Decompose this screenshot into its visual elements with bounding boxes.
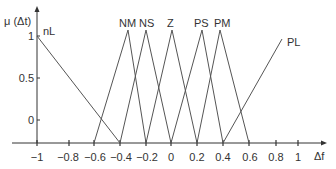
x-tick-label: −0.8 bbox=[57, 151, 79, 163]
x-tick-label: 0.8 bbox=[268, 151, 283, 163]
x-axis-label: Δf bbox=[314, 150, 325, 162]
y-axis-label: μ (Δt) bbox=[4, 15, 31, 27]
x-tick-label: −1 bbox=[31, 151, 44, 163]
x-tick-label: −0.6 bbox=[84, 151, 106, 163]
x-tick-label: 0.2 bbox=[189, 151, 204, 163]
y-axis-arrow-icon bbox=[35, 6, 40, 12]
series-label-Z: Z bbox=[167, 17, 174, 29]
x-tick-label: −0.4 bbox=[110, 151, 132, 163]
series-PL bbox=[223, 39, 282, 143]
series-label-PL: PL bbox=[287, 36, 300, 48]
x-axis-arrow-icon bbox=[321, 141, 327, 146]
series-Z bbox=[146, 30, 197, 143]
x-tick-label: 0.4 bbox=[215, 151, 230, 163]
y-tick-label: 0 bbox=[28, 114, 34, 126]
y-tick-label: 1 bbox=[28, 30, 34, 42]
x-tick-label: 0.6 bbox=[242, 151, 257, 163]
membership-function-chart: μ (Δt) 1 0.5 0 Δf −1 −0.8 −0.6 bbox=[0, 0, 336, 169]
series-label-PM: PM bbox=[214, 17, 231, 29]
series-label-NM: NM bbox=[119, 17, 136, 29]
series-lines bbox=[37, 30, 282, 143]
series-label-PS: PS bbox=[194, 17, 209, 29]
series-NM bbox=[94, 30, 146, 143]
series-label-nL: nL bbox=[43, 25, 55, 37]
x-axis: Δf −1 −0.8 −0.6 −0.4 −0.2 0 0.2 0.4 0.6 … bbox=[12, 140, 327, 163]
x-tick-label: 0 bbox=[168, 151, 174, 163]
y-axis: μ (Δt) 1 0.5 0 bbox=[4, 6, 40, 143]
y-tick-label: 0.5 bbox=[19, 72, 34, 84]
series-PS bbox=[171, 30, 223, 143]
x-tick-label: 1 bbox=[295, 151, 301, 163]
x-tick-label: −0.2 bbox=[136, 151, 158, 163]
series-label-NS: NS bbox=[139, 17, 154, 29]
series-NS bbox=[120, 30, 171, 143]
series-nL bbox=[37, 36, 120, 143]
